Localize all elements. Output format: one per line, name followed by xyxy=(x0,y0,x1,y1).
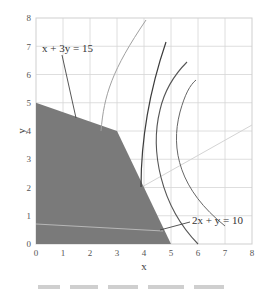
svg-text:1: 1 xyxy=(61,248,66,258)
svg-text:4: 4 xyxy=(27,126,32,136)
objective-contour-1 xyxy=(101,20,146,131)
svg-text:0: 0 xyxy=(27,239,32,249)
svg-text:6: 6 xyxy=(196,248,201,258)
x-axis-label: x xyxy=(141,260,147,272)
pointer-x3y15 xyxy=(62,55,76,118)
svg-text:5: 5 xyxy=(169,248,174,258)
svg-text:2: 2 xyxy=(27,183,32,193)
svg-text:6: 6 xyxy=(27,70,32,80)
svg-text:3: 3 xyxy=(115,248,120,258)
svg-text:8: 8 xyxy=(250,248,255,258)
feasible-region xyxy=(36,103,171,244)
y-axis-label: y xyxy=(15,128,27,134)
objective-contour-2 xyxy=(141,42,166,187)
svg-text:0: 0 xyxy=(34,248,39,258)
x-tick-labels: 0 1 2 3 4 5 6 7 8 xyxy=(34,248,255,258)
svg-text:4: 4 xyxy=(142,248,147,258)
objective-contour-4 xyxy=(176,80,225,226)
svg-text:7: 7 xyxy=(223,248,228,258)
svg-text:1: 1 xyxy=(27,211,32,221)
label-constraint-2xy10: 2x + y = 10 xyxy=(192,214,243,226)
label-constraint-x3y15: x + 3y = 15 xyxy=(42,42,93,54)
svg-text:3: 3 xyxy=(27,154,32,164)
svg-text:8: 8 xyxy=(27,13,32,23)
y-tick-labels: 0 1 2 3 4 5 6 7 8 xyxy=(27,13,32,249)
caption-cutoff xyxy=(38,285,228,289)
svg-text:5: 5 xyxy=(27,98,32,108)
lp-feasible-region-chart: x + 3y = 15 2x + y = 10 0 1 2 3 4 5 6 7 … xyxy=(0,0,266,289)
svg-text:7: 7 xyxy=(27,42,32,52)
svg-text:2: 2 xyxy=(88,248,93,258)
